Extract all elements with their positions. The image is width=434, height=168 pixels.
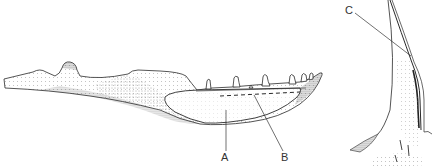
label-c: C xyxy=(345,5,353,16)
jaw-illustration xyxy=(0,0,434,168)
enlarged-detail-view xyxy=(350,0,432,167)
label-a: A xyxy=(221,152,228,163)
leader-line-c xyxy=(355,13,411,56)
mandible-lateral-view xyxy=(4,62,322,125)
label-b: B xyxy=(281,152,288,163)
